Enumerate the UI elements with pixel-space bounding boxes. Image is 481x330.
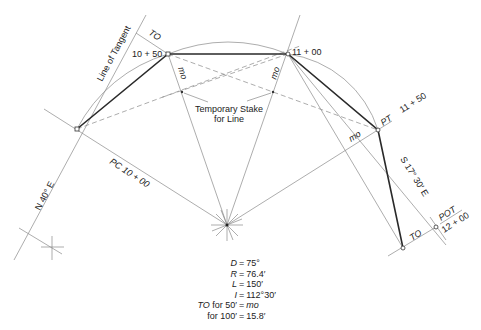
legend-row-to-50: TO for 50′ = mo	[175, 300, 315, 311]
pot-point-icon	[434, 225, 438, 229]
sta-1150-label: 11 + 50	[398, 91, 428, 115]
temp-stake-label-1: Temporary Stake	[195, 104, 263, 114]
legend-value: 15.8′	[246, 311, 265, 322]
temp-stake-label-2: for Line	[214, 114, 244, 124]
to-top-label: TO	[147, 27, 163, 42]
to-end-point-icon	[401, 246, 405, 250]
legend-value: 150′	[246, 279, 263, 290]
pt-label: PT	[379, 112, 395, 127]
curve-center-icon	[211, 209, 243, 241]
to-bottom-label: TO	[408, 228, 424, 243]
curve-data-legend: D = 75° R = 76.4′ L = 150′ I = 112°30′ T…	[175, 258, 315, 321]
sta-1100-label: 11 + 00	[292, 47, 322, 57]
legend-row-i: I = 112°30′	[175, 290, 315, 301]
chord-extension-1100-to	[288, 54, 403, 248]
temp-stake-right-icon	[272, 91, 274, 93]
legend-row-l: L = 150′	[175, 279, 315, 290]
forward-tangent-line	[288, 54, 446, 245]
legend-key: D	[175, 258, 237, 269]
temp-stake-left-icon	[181, 91, 183, 93]
pt-point-icon	[376, 128, 380, 132]
radius-1050	[168, 54, 227, 225]
legend-key: R	[175, 269, 237, 280]
back-tangent-line	[14, 15, 146, 260]
bearing-out-label: S 17° 30′ E	[398, 155, 430, 198]
sta-1100-point-icon	[286, 52, 290, 56]
sta-1050-point-icon	[166, 52, 170, 56]
legend-value: 112°30′	[246, 290, 276, 301]
legend-value: 75°	[246, 258, 260, 269]
legend-key: TO for 50′	[175, 300, 237, 311]
legend-key: L	[175, 279, 237, 290]
chord-lines	[77, 54, 403, 248]
bearing-in-label: N 40° E	[33, 180, 56, 212]
legend-value: mo	[246, 300, 259, 311]
pc-point-icon	[75, 127, 79, 131]
legend-row-to-100: for 100′ = 15.8′	[175, 311, 315, 322]
mo-right-label: mo	[268, 66, 281, 81]
temp-stake-arrow-right	[247, 93, 271, 101]
radius-pt	[227, 121, 392, 225]
legend-value: 76.4′	[246, 269, 265, 280]
legend-row-r: R = 76.4′	[175, 269, 315, 280]
legend-key: for 100′	[175, 311, 237, 322]
mo-left-label: mo	[176, 66, 189, 81]
reference-offset-line	[19, 228, 62, 254]
radius-pc	[44, 109, 227, 225]
sta-1050-label: 10 + 50	[132, 49, 162, 59]
legend-row-d: D = 75°	[175, 258, 315, 269]
legend-key: I	[175, 290, 237, 301]
temp-stake-arrow-left	[184, 93, 208, 102]
